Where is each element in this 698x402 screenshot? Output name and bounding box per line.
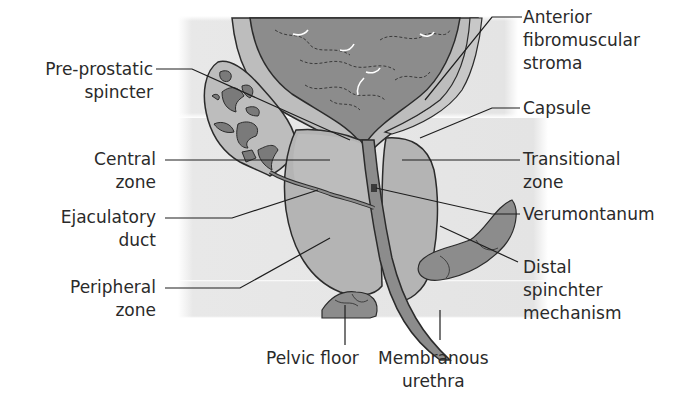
label-membranous-urethra: Membranous urethra [378, 347, 489, 393]
prostate-diagram: Pre-prostatic spincter Central zone Ejac… [0, 0, 698, 402]
label-ejaculatory-duct: Ejaculatory duct [61, 206, 156, 252]
label-central-zone: Central zone [94, 148, 156, 194]
label-pelvic-floor: Pelvic floor [266, 347, 359, 370]
label-anterior-fibromuscular-stroma: Anterior fibromuscular stroma [523, 6, 640, 75]
label-verumontanum: Verumontanum [523, 203, 654, 226]
label-distal-sphincter-mechanism: Distal spinchter mechanism [523, 256, 621, 325]
label-transitional-zone: Transitional zone [523, 148, 620, 194]
label-pre-prostatic-sphincter: Pre-prostatic spincter [45, 58, 153, 104]
label-peripheral-zone: Peripheral zone [70, 276, 156, 322]
label-capsule: Capsule [523, 97, 591, 120]
